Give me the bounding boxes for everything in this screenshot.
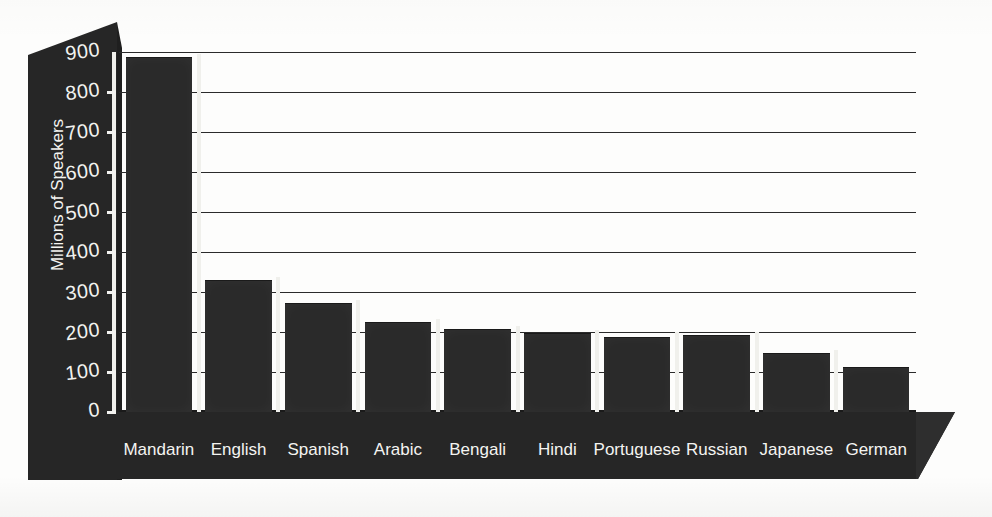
x-tick-label: Bengali <box>449 440 506 460</box>
y-tick-mark <box>107 131 116 134</box>
bar <box>126 57 193 412</box>
bar-separator <box>356 300 360 412</box>
x-tick-label: English <box>211 440 267 460</box>
x-tick-label: Russian <box>686 440 747 460</box>
bar <box>604 337 671 412</box>
x-tick-label: Spanish <box>288 440 349 460</box>
bar-separator <box>436 319 440 412</box>
y-tick-mark <box>107 91 116 94</box>
y-tick-mark <box>107 291 116 294</box>
bar-separator <box>516 326 520 412</box>
x-tick-label: Hindi <box>538 440 577 460</box>
bar-separator <box>834 350 838 412</box>
y-tick-mark <box>107 171 116 174</box>
y-tick-mark <box>107 251 116 254</box>
y-axis-rail <box>112 52 116 414</box>
y-tick-mark <box>107 331 116 334</box>
chart-page: Millions of Speakers 9008007006005004003… <box>0 0 992 517</box>
bar <box>285 303 352 412</box>
y-tick-mark <box>107 411 116 414</box>
y-tick-mark <box>107 371 116 374</box>
bar-separator <box>595 330 599 412</box>
x-tick-label: Arabic <box>374 440 422 460</box>
x-tick-label: Mandarin <box>123 440 194 460</box>
x-tick-label: Portuguese <box>594 440 681 460</box>
y-tick-mark <box>107 211 116 214</box>
bar-separator <box>755 332 759 412</box>
x-tick-label: German <box>845 440 906 460</box>
bar <box>683 335 750 412</box>
bar-separator <box>197 54 201 412</box>
bar <box>444 329 511 412</box>
bar <box>524 333 591 412</box>
bar <box>763 353 830 412</box>
bar <box>843 367 910 412</box>
x-tick-label: Japanese <box>760 440 834 460</box>
bar <box>365 322 432 412</box>
bar-separator <box>675 332 679 412</box>
bar-separator <box>276 277 280 412</box>
bar <box>205 280 272 412</box>
